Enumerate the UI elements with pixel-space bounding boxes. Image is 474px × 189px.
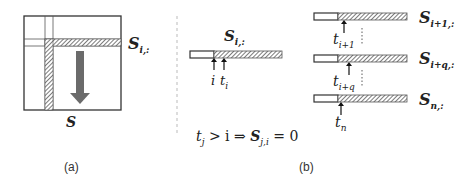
caption-a: (a) bbox=[64, 160, 79, 174]
down-arrow-icon bbox=[76, 51, 84, 93]
t-label-n: tn bbox=[335, 115, 346, 133]
row-label-s-i-center: Si,: bbox=[224, 29, 245, 47]
row-label-s-n: Sn,: bbox=[419, 92, 444, 111]
row-label-s-i-plus-1: Si+1,: bbox=[419, 10, 454, 29]
row-label-s-i: Si,: bbox=[128, 36, 149, 55]
row-s-i bbox=[190, 51, 282, 70]
row-label-s-i-plus-q: Si+q,: bbox=[419, 51, 454, 70]
caption-b: (b) bbox=[299, 160, 314, 174]
matrix-label-s: S bbox=[66, 115, 76, 129]
row-s-n bbox=[314, 95, 407, 115]
row-s-i-plus-1 bbox=[314, 13, 407, 44]
row-s-i-plus-q bbox=[314, 55, 407, 86]
t-label-i-plus-q: ti+q bbox=[333, 74, 355, 92]
hatched-row bbox=[45, 39, 121, 46]
arrow-label-i: i bbox=[211, 74, 215, 87]
equation: tj > i ⇒ Sj,i = 0 bbox=[196, 129, 298, 147]
arrow-label-t-i: ti bbox=[220, 74, 228, 91]
matrix-s bbox=[24, 16, 121, 110]
t-label-i-plus-1: ti+1 bbox=[333, 32, 355, 50]
hatched-column bbox=[45, 39, 53, 110]
